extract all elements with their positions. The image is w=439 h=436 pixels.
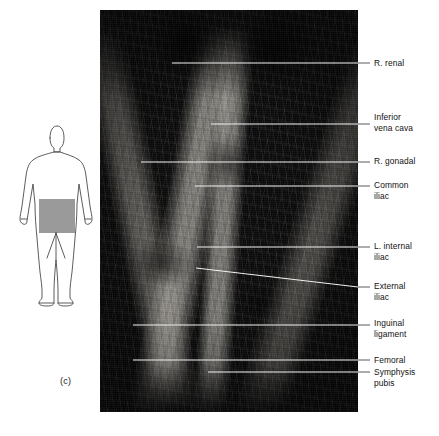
- label-external-iliac: External iliac: [374, 281, 406, 304]
- head-outline: [50, 126, 64, 152]
- label-r-gonadal: R. gonadal: [374, 156, 416, 167]
- figure-caption: (c): [60, 376, 71, 386]
- label-femoral: Femoral: [374, 355, 405, 366]
- dissection-photograph: [100, 10, 358, 412]
- label-inferior-vena-cava: Inferior vena cava: [374, 112, 413, 135]
- label-inguinal-ligament: Inguinal ligament: [374, 318, 406, 341]
- photo-film-grain: [100, 10, 358, 412]
- body-orientation-diagram: [14, 120, 98, 312]
- crotch-left-line: [47, 233, 56, 258]
- pelvic-region-highlight: [39, 199, 75, 233]
- body-outline-svg: [14, 120, 98, 312]
- label-common-iliac: Common iliac: [374, 180, 409, 203]
- label-symphysis-pubis: Symphysis pubis: [374, 367, 415, 390]
- label-l-internal-iliac: L. internal iliac: [374, 241, 412, 264]
- crotch-right-line: [56, 233, 65, 258]
- label-r-renal: R. renal: [374, 58, 404, 69]
- anatomy-figure: (c): [0, 0, 439, 436]
